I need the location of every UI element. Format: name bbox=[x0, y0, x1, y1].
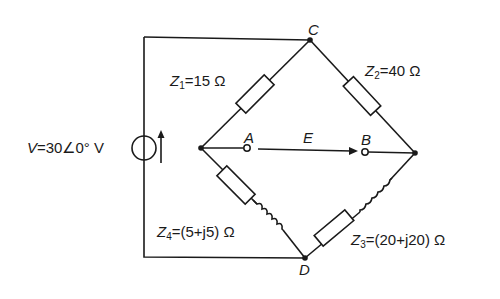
label-z4: Z4=(5+j5) Ω bbox=[157, 224, 235, 242]
resistor-z1-icon bbox=[236, 75, 274, 113]
resistor-z2-icon bbox=[343, 77, 381, 116]
source-value: =30∠0° V bbox=[37, 139, 104, 156]
voltage-e-arrow-line bbox=[258, 149, 352, 151]
label-z3: Z3=(20+j20) Ω bbox=[351, 232, 445, 250]
wire-z3-a bbox=[390, 153, 415, 180]
wire-b-to-right bbox=[368, 152, 415, 153]
node-d bbox=[302, 255, 308, 261]
resistor-z4-icon bbox=[217, 166, 255, 204]
wire-z4-b bbox=[283, 230, 305, 258]
e-arrowhead-icon bbox=[349, 147, 358, 155]
node-c bbox=[307, 37, 313, 43]
label-terminal-b: B bbox=[361, 132, 371, 147]
node-right bbox=[412, 150, 418, 156]
source-arrowhead-icon bbox=[158, 130, 165, 138]
source-symbol: V bbox=[27, 139, 37, 156]
label-z2: Z2=40 Ω bbox=[365, 63, 421, 81]
label-terminal-a: A bbox=[244, 130, 254, 145]
label-node-c: C bbox=[308, 22, 319, 37]
inductor-z4-icon bbox=[253, 200, 283, 230]
resistor-z3-icon bbox=[314, 210, 354, 246]
inductor-z3-icon bbox=[360, 178, 392, 212]
label-z1: Z1=15 Ω bbox=[170, 73, 226, 91]
terminal-b bbox=[362, 149, 368, 155]
label-source: V=30∠0° V bbox=[27, 140, 104, 155]
label-node-d: D bbox=[299, 262, 310, 277]
node-left bbox=[198, 145, 204, 151]
wire-top bbox=[144, 37, 310, 40]
label-voltage-e: E bbox=[303, 130, 313, 145]
